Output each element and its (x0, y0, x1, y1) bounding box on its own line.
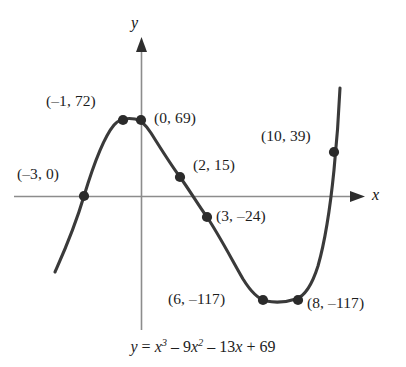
point-label-minus3-0: (–3, 0) (17, 166, 59, 182)
data-point (329, 147, 339, 157)
point-label-10-39: (10, 39) (261, 128, 311, 144)
point-label-minus1-72: (–1, 72) (46, 93, 96, 109)
data-point (293, 295, 303, 305)
point-label-8-minus117: (8, –117) (307, 295, 364, 311)
data-point (202, 212, 212, 222)
figure-canvas: y x (–1, 72) (0, 69) (10, 39) (–3, 0) (2… (0, 0, 406, 367)
data-point (175, 172, 185, 182)
curve-path (55, 88, 340, 302)
data-point (79, 191, 89, 201)
equation-term4: + 69 (242, 338, 275, 355)
data-point (118, 115, 128, 125)
equation-equals: = (138, 338, 155, 355)
point-label-6-minus117: (6, –117) (168, 291, 225, 307)
equation-x1: x (155, 338, 162, 355)
point-label-0-69: (0, 69) (154, 110, 196, 126)
cubic-function-graph (0, 0, 406, 367)
equation-y: y (131, 338, 138, 355)
data-point (258, 295, 268, 305)
equation-term3: – 13 (203, 338, 235, 355)
equation-term2: – 9 (167, 338, 191, 355)
y-axis (136, 37, 147, 330)
x-axis-label: x (372, 186, 379, 204)
point-label-2-15: (2, 15) (193, 157, 235, 173)
point-label-3-minus24: (3, –24) (216, 208, 266, 224)
equation-caption: y = x3 – 9x2 – 13x + 69 (0, 338, 406, 356)
y-axis-label: y (131, 14, 138, 32)
data-point (136, 115, 146, 125)
